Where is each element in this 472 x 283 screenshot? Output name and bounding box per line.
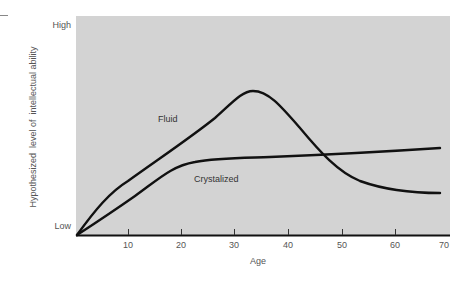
x-tick-labels: 10 20 30 40 50 60 70 — [123, 240, 449, 250]
y-low-label: Low — [54, 221, 71, 231]
y-high-label: High — [52, 20, 71, 30]
crystalized-label: Crystalized — [194, 174, 239, 184]
plot-area — [76, 16, 450, 236]
svg-text:30: 30 — [229, 240, 239, 250]
svg-text:20: 20 — [176, 240, 186, 250]
chart: 10 20 30 40 50 60 70 Age High Low Hypoth… — [0, 0, 472, 283]
fluid-label: Fluid — [158, 114, 178, 124]
svg-text:70: 70 — [439, 240, 449, 250]
svg-text:50: 50 — [337, 240, 347, 250]
y-axis-label: Hypothesized level of intellectual abili… — [28, 46, 38, 208]
svg-text:10: 10 — [123, 240, 133, 250]
x-axis-label: Age — [250, 256, 266, 266]
svg-text:60: 60 — [390, 240, 400, 250]
svg-text:40: 40 — [283, 240, 293, 250]
